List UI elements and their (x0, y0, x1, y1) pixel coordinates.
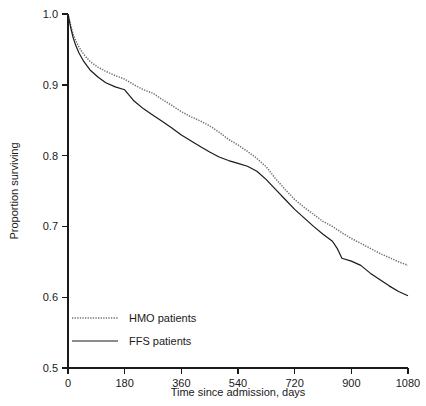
series-line-hmo (68, 14, 408, 265)
y-tick-label: 1.0 (43, 8, 58, 20)
y-axis-title: Proportion surviving (8, 142, 20, 239)
y-tick-label: 0.6 (43, 291, 58, 303)
chart-legend: HMO patientsFFS patients (72, 312, 197, 347)
x-tick-label: 0 (65, 377, 71, 389)
survival-plot: 0.50.60.70.80.91.0 01803605407209001080 … (0, 0, 426, 406)
x-tick-label: 180 (115, 377, 133, 389)
series-line-ffs (68, 14, 408, 296)
y-tick-label: 0.8 (43, 150, 58, 162)
survival-curve-figure: 0.50.60.70.80.91.0 01803605407209001080 … (0, 0, 426, 406)
legend-label-ffs: FFS patients (129, 335, 192, 347)
chart-axes (68, 14, 408, 368)
y-tick-label: 0.9 (43, 79, 58, 91)
x-tick-label: 900 (342, 377, 360, 389)
x-tick-label: 1080 (396, 377, 420, 389)
legend-label-hmo: HMO patients (129, 312, 197, 324)
y-axis-ticks: 0.50.60.70.80.91.0 (43, 8, 68, 374)
data-series-group (68, 14, 408, 296)
y-tick-label: 0.5 (43, 362, 58, 374)
x-axis-title: Time since admission, days (171, 386, 306, 398)
y-tick-label: 0.7 (43, 220, 58, 232)
